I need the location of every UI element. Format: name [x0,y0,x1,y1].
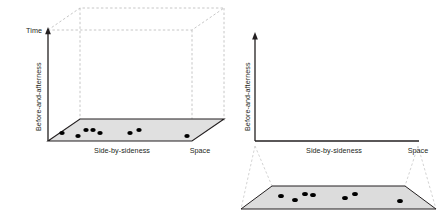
cube-top-face-edge [48,8,224,30]
left-depth-axis-label: Space [190,146,211,155]
data-point [90,128,95,132]
right-vertical-axis-label: Before-and-afterness [243,62,252,131]
data-point [136,128,141,132]
data-point [184,134,189,138]
data-point [342,196,348,200]
data-point [352,192,358,196]
data-point [397,199,403,203]
left-floor-plane [48,119,224,141]
data-point [302,192,308,196]
left-horizontal-axis-label: Side-by-sideness [94,146,150,155]
data-point [278,194,284,198]
diagram-svg: Time Before-and-afterness Side-by-sidene… [0,0,448,218]
data-point [97,131,102,135]
right-vertical-axis-arrowhead [252,32,258,40]
left-vertical-axis-label: Before-and-afterness [34,62,43,131]
right-corner-axis-label: Space [408,146,429,155]
right-floor-plane [241,186,436,209]
data-point [75,134,80,138]
data-point [310,193,316,197]
left-time-axis-label: Time [26,26,42,35]
callout-left-inner-line [255,146,272,186]
left-panel-group: Time Before-and-afterness Side-by-sidene… [26,8,224,155]
right-panel-group: Before-and-afterness Side-by-sideness Sp… [241,32,436,209]
data-point [292,198,298,202]
data-point [59,131,64,135]
left-vertical-axis-arrowhead [45,27,51,34]
figure-container: Time Before-and-afterness Side-by-sidene… [0,0,448,218]
right-horizontal-axis-label: Side-by-sideness [306,146,362,155]
data-point [83,128,88,132]
data-point [127,131,132,135]
